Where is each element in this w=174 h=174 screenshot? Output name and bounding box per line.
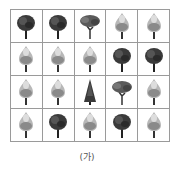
light-flame-tree-icon <box>143 12 165 40</box>
light-flame-tree-icon <box>111 12 133 40</box>
dark-round-tree-icon <box>47 111 69 139</box>
grid-cell <box>75 10 107 43</box>
light-flame-tree-icon <box>47 45 69 73</box>
light-flame-tree-icon <box>15 78 37 106</box>
grid-cell <box>43 10 75 43</box>
grid-cell <box>75 109 107 142</box>
grid-cell <box>43 43 75 76</box>
light-flame-tree-icon <box>79 45 101 73</box>
grid-cell <box>106 10 138 43</box>
dark-round-tree-icon <box>15 12 37 40</box>
dark-round-tree-icon <box>47 12 69 40</box>
grid-cell <box>106 76 138 109</box>
grid-cell <box>75 43 107 76</box>
grid-cell <box>11 76 43 109</box>
light-flame-tree-icon <box>15 111 37 139</box>
light-flame-tree-icon <box>47 78 69 106</box>
spreading-tree-icon <box>79 12 101 40</box>
grid-cell <box>138 43 170 76</box>
grid-cell <box>43 109 75 142</box>
dark-round-tree-icon <box>143 45 165 73</box>
grid-cell <box>138 109 170 142</box>
light-flame-tree-icon <box>15 45 37 73</box>
grid-cell <box>11 109 43 142</box>
light-flame-tree-icon <box>143 111 165 139</box>
tree-grid <box>10 9 170 142</box>
grid-cell <box>11 10 43 43</box>
conifer-tree-icon <box>79 78 101 106</box>
grid-cell <box>138 76 170 109</box>
dark-round-tree-icon <box>111 45 133 73</box>
grid-cell <box>75 76 107 109</box>
grid-cell <box>138 10 170 43</box>
light-flame-tree-icon <box>143 78 165 106</box>
grid-cell <box>43 76 75 109</box>
dark-round-tree-icon <box>111 111 133 139</box>
spreading-tree-icon <box>111 78 133 106</box>
light-flame-tree-icon <box>79 111 101 139</box>
grid-cell <box>106 109 138 142</box>
figure-caption: (가) <box>0 150 174 163</box>
grid-cell <box>11 43 43 76</box>
grid-cell <box>106 43 138 76</box>
